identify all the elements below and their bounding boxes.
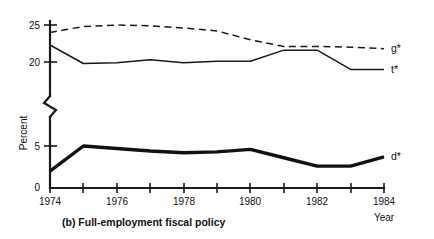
series-labels: g* t* d* (391, 42, 401, 162)
x-tick-label-1976: 1976 (106, 196, 129, 207)
y-tick-label-25: 25 (29, 20, 41, 31)
y-tick-label-5: 5 (34, 141, 40, 152)
x-tick-label-1978: 1978 (173, 196, 196, 207)
x-tick-label-1980: 1980 (239, 196, 262, 207)
series-group (50, 25, 384, 171)
x-tick-label-1974: 1974 (39, 196, 62, 207)
series-line-d (50, 146, 384, 171)
series-line-t (50, 45, 384, 69)
chart-figure: 25 20 5 0 Percent 1974 1976 1978 1980 (0, 0, 434, 239)
y-tick-label-0: 0 (34, 182, 40, 193)
x-axis-title: Year (374, 212, 395, 223)
y-axis-title: Percent (18, 116, 29, 151)
x-tick-label-1984: 1984 (373, 196, 396, 207)
series-label-g: g* (391, 42, 401, 54)
x-tick-label-1982: 1982 (306, 196, 329, 207)
series-line-g (50, 25, 384, 49)
series-label-t: t* (391, 63, 398, 75)
y-axis-break-zigzag (44, 96, 56, 117)
figure-caption: (b) Full-employment fiscal policy (62, 216, 226, 228)
y-tick-label-20: 20 (29, 57, 41, 68)
line-chart: 25 20 5 0 Percent 1974 1976 1978 1980 (0, 0, 434, 239)
series-label-d: d* (391, 150, 401, 162)
